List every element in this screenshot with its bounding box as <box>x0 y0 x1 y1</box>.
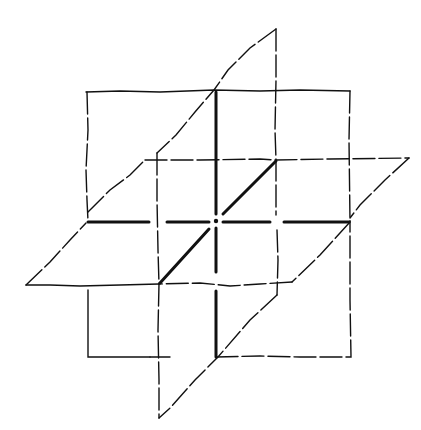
center-point <box>214 219 218 223</box>
depth-axis-back <box>223 161 276 214</box>
depth-axis-front <box>160 229 209 283</box>
three-planes-diagram <box>0 0 421 430</box>
intersection-axes <box>88 92 349 357</box>
